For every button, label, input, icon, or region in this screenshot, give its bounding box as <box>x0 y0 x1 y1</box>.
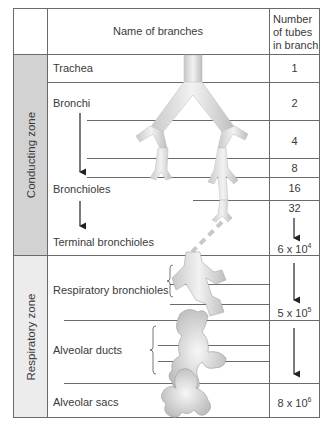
bracket-icon <box>167 265 173 297</box>
bracket-icon <box>150 326 156 374</box>
airway-illustration <box>0 0 328 434</box>
